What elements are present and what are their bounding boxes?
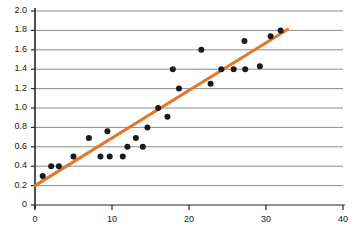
y-tick-label: 0.4 <box>0 161 27 170</box>
data-point <box>257 63 263 69</box>
data-point <box>208 81 214 87</box>
y-tick-label: 0.8 <box>0 122 27 131</box>
data-point <box>241 38 247 44</box>
data-point <box>278 27 284 33</box>
data-point <box>170 66 176 72</box>
y-tick-label: 2.0 <box>0 6 27 15</box>
data-point <box>97 154 103 160</box>
data-point <box>268 33 274 39</box>
data-point <box>242 66 248 72</box>
data-point <box>124 144 130 150</box>
data-point <box>144 124 150 130</box>
data-point <box>86 135 92 141</box>
data-point <box>71 154 77 160</box>
x-tick-label: 30 <box>246 215 286 224</box>
x-tick-label: 10 <box>92 215 132 224</box>
data-point <box>104 128 110 134</box>
y-tick-label: 1.6 <box>0 45 27 54</box>
data-point <box>231 66 237 72</box>
data-point <box>48 163 54 169</box>
data-point <box>40 173 46 179</box>
y-tick-label: 1.0 <box>0 103 27 112</box>
data-point <box>164 114 170 120</box>
y-tick-label: 1.8 <box>0 25 27 34</box>
y-tick-label: 1.2 <box>0 84 27 93</box>
data-point <box>107 154 113 160</box>
data-point <box>56 163 62 169</box>
x-tick-label: 20 <box>169 215 209 224</box>
data-point <box>140 144 146 150</box>
scatter-plot-chart: 00.20.40.60.81.01.21.41.61.82.0 01020304… <box>0 0 358 240</box>
data-point <box>155 105 161 111</box>
plot-canvas <box>0 0 358 240</box>
y-tick-label: 0.2 <box>0 181 27 190</box>
y-tick-label: 0 <box>0 200 27 209</box>
data-point <box>120 154 126 160</box>
gridlines <box>35 11 343 186</box>
x-axis-ticks <box>35 205 343 210</box>
data-point <box>198 47 204 53</box>
y-tick-label: 1.4 <box>0 64 27 73</box>
data-point <box>133 135 139 141</box>
data-point <box>176 86 182 92</box>
x-tick-label: 0 <box>15 215 55 224</box>
data-point <box>218 66 224 72</box>
y-tick-label: 0.6 <box>0 142 27 151</box>
x-tick-label: 40 <box>323 215 358 224</box>
